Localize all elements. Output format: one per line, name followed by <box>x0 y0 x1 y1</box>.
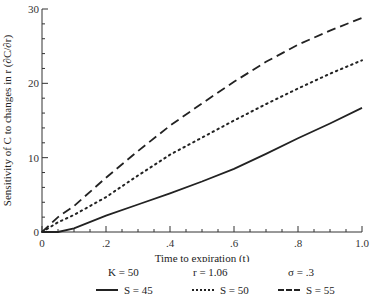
y-tick-label: 0 <box>34 226 40 238</box>
x-tick-label: .6 <box>230 237 239 249</box>
chart-plot: 0.2.4.6.81.00102030Time to expiration (t… <box>0 0 373 262</box>
x-tick-label: .2 <box>102 237 110 249</box>
x-tick-label: .8 <box>294 237 303 249</box>
param-sigma: σ = .3 <box>288 266 314 278</box>
y-tick-label: 20 <box>28 77 40 89</box>
dotted-line-icon <box>192 289 214 291</box>
y-axis-title: Sensitivity of C to changes in r (∂C/∂r) <box>1 35 14 207</box>
legend-item-s55: S = 55 <box>278 284 335 296</box>
solid-line-icon <box>96 289 118 291</box>
series-line-solid <box>42 108 362 232</box>
legend-label: S = 55 <box>306 284 335 296</box>
x-axis-title: Time to expiration (t) <box>155 252 250 262</box>
legend-item-s50: S = 50 <box>192 284 249 296</box>
y-tick-label: 30 <box>28 3 40 15</box>
x-tick-label: .4 <box>166 237 175 249</box>
param-k: K = 50 <box>108 266 139 278</box>
y-tick-label: 10 <box>28 152 40 164</box>
legend-label: S = 45 <box>124 284 153 296</box>
param-r: r = 1.06 <box>193 266 228 278</box>
legend-label: S = 50 <box>220 284 249 296</box>
x-tick-label: 0 <box>39 237 45 249</box>
dashed-line-icon <box>278 289 300 291</box>
legend-item-s45: S = 45 <box>96 284 153 296</box>
series-line-dashed <box>42 18 362 232</box>
series-line-dotted <box>42 60 362 232</box>
x-tick-label: 1.0 <box>355 237 369 249</box>
